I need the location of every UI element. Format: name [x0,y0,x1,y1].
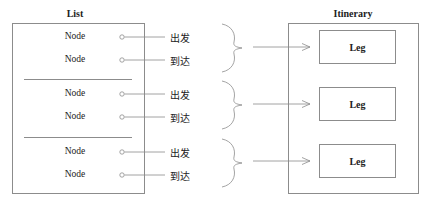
arrival-label: 到达 [170,53,190,68]
brace-icon [222,139,242,187]
leg-box: Leg [319,144,396,178]
node-label: Node [45,31,105,41]
departure-label: 出发 [170,30,190,45]
departure-label: 出发 [170,87,190,102]
node-label: Node [45,111,105,121]
brace-icon [222,81,242,129]
list-title: List [45,8,105,19]
brace-icon [222,24,242,72]
node-label: Node [45,169,105,179]
leg-box: Leg [319,30,396,64]
node-label: Node [45,146,105,156]
node-label: Node [45,88,105,98]
departure-label: 出发 [170,145,190,160]
group-divider [24,137,132,138]
arrival-label: 到达 [170,168,190,183]
arrival-label: 到达 [170,110,190,125]
leg-box: Leg [319,87,396,121]
itinerary-title: Itinerary [318,8,388,19]
node-label: Node [45,54,105,64]
group-divider [24,79,132,80]
